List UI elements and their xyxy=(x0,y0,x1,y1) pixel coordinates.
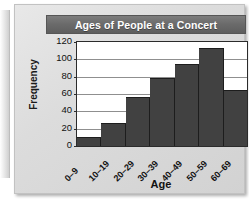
bar xyxy=(175,64,199,146)
bar xyxy=(77,137,101,146)
chart-title: Ages of People at a Concert xyxy=(75,19,217,31)
y-tick-label: 60 xyxy=(61,88,72,98)
bar xyxy=(199,48,223,146)
bar xyxy=(224,90,247,146)
y-axis-title: Frequency xyxy=(28,55,39,115)
bar xyxy=(150,78,174,146)
bar xyxy=(101,123,125,146)
page-edge-decoration xyxy=(0,10,10,178)
y-tick-label: 100 xyxy=(56,53,72,63)
y-tick-label: 0 xyxy=(67,140,72,150)
y-tick-label: 120 xyxy=(56,36,72,46)
chart-screenshot: Ages of People at a Concert Frequency 12… xyxy=(0,0,249,201)
y-tick-label: 40 xyxy=(61,105,72,115)
x-axis-title: Age xyxy=(76,178,246,190)
chart-card: Ages of People at a Concert Frequency 12… xyxy=(14,4,245,194)
y-tick-label: 20 xyxy=(61,123,72,133)
bar xyxy=(126,97,150,146)
y-axis-tick-labels: 120 100 80 60 40 20 0 xyxy=(51,36,74,148)
chart-title-banner: Ages of People at a Concert xyxy=(46,15,246,34)
bar-series xyxy=(77,42,247,146)
x-axis-tick-labels: 0–910–1920–2930–3940–4950–5960–69 xyxy=(76,146,246,176)
y-tick-label: 80 xyxy=(61,71,72,81)
plot-area xyxy=(76,41,248,147)
